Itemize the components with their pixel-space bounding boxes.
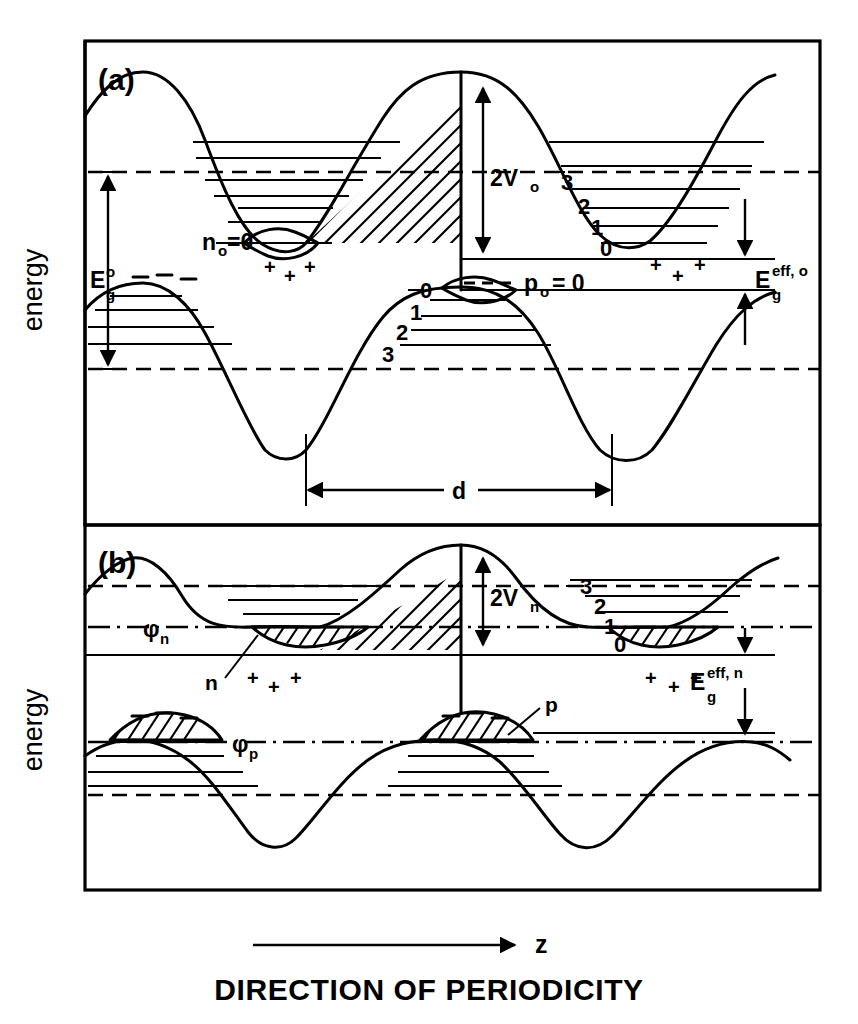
panel-a-charges-left: + + + bbox=[264, 256, 316, 287]
panel-a-hole-ground-base: p bbox=[524, 270, 538, 296]
panel-b-phi-n-sub: n bbox=[160, 630, 169, 647]
panel-b-charges-left: + + + bbox=[247, 667, 302, 698]
panel-b-level-0: 0 bbox=[614, 632, 626, 657]
panel-a-minus-symbols bbox=[133, 275, 196, 279]
panel-a-period-label: d bbox=[452, 478, 466, 504]
panel-b-phi-p-sub: p bbox=[249, 745, 258, 762]
svg-text:+: + bbox=[304, 256, 316, 278]
panel-b-effective-gap-sub: g bbox=[707, 688, 716, 705]
panel-a-gap-label-sup: o bbox=[106, 263, 115, 280]
panel-a-label: (a) bbox=[98, 63, 135, 96]
panel-b-barrier-label-sub: n bbox=[530, 598, 539, 615]
panel-a-electron-ground-eq: =0 bbox=[227, 229, 253, 255]
panel-a-effective-gap-base: E bbox=[755, 267, 770, 293]
panel-a-level-3: 3 bbox=[561, 170, 573, 195]
panel-a-y-axis-label: energy bbox=[18, 248, 48, 331]
panel-a-valence-levels-right bbox=[400, 300, 551, 345]
panel-b-phi-p-base: φ bbox=[232, 731, 248, 757]
panel-a-hole-ground-sub: o bbox=[540, 283, 549, 300]
panel-b-hole-accumulation-right bbox=[420, 712, 533, 740]
panel-a-valence-level-3: 3 bbox=[382, 342, 394, 367]
panel-a-level-2: 2 bbox=[578, 194, 590, 219]
svg-text:+: + bbox=[247, 667, 259, 689]
panel-a-valence-level-2: 2 bbox=[396, 320, 408, 345]
panel-b-effective-gap-sup: eff, n bbox=[707, 664, 743, 681]
panel-b-effective-gap-base: E bbox=[690, 669, 705, 695]
svg-text:+: + bbox=[645, 667, 657, 689]
panel-a-valence-level-1: 1 bbox=[410, 300, 422, 325]
svg-text:+: + bbox=[264, 256, 276, 278]
svg-text:+: + bbox=[268, 676, 280, 698]
panel-a-conduction-band-curve bbox=[85, 72, 775, 252]
panel-b-hole-label: p bbox=[545, 693, 558, 716]
z-axis-label: z bbox=[535, 930, 548, 958]
x-axis-caption: DIRECTION OF PERIODICITY bbox=[214, 973, 643, 1006]
svg-text:+: + bbox=[284, 265, 296, 287]
panel-a-conduction-levels-left bbox=[193, 142, 400, 222]
panel-a-conduction-levels-right bbox=[549, 142, 764, 243]
panel-a-gap-label-sub: g bbox=[106, 286, 115, 303]
panel-a-level-0: 0 bbox=[600, 236, 612, 261]
figure-root: 2V o E g o E g eff, o n o =0 p o = 0 3 bbox=[0, 0, 858, 1024]
svg-text:+: + bbox=[650, 254, 662, 276]
panel-a-hole-ground-eq: = 0 bbox=[552, 270, 585, 296]
panel-a-valence-levels-left bbox=[88, 296, 232, 344]
panel-b-phi-n-base: φ bbox=[143, 616, 159, 642]
panel-b-hole-accumulation-left bbox=[110, 713, 222, 740]
panel-a-barrier-label-sub: o bbox=[530, 178, 539, 195]
panel-a-effective-gap-sub: g bbox=[772, 286, 781, 303]
panel-b-label: (b) bbox=[98, 546, 136, 579]
svg-text:+: + bbox=[668, 676, 680, 698]
panel-b-y-axis-label: energy bbox=[18, 688, 48, 771]
panel-b-valence-levels-right bbox=[388, 742, 562, 786]
panel-a-electron-ground-sub: o bbox=[218, 242, 227, 259]
panel-a-barrier-label-base: 2V bbox=[490, 165, 519, 191]
panel-a-electron-ground-base: n bbox=[202, 229, 216, 255]
svg-text:+: + bbox=[694, 254, 706, 276]
panel-b-barrier-label-base: 2V bbox=[490, 585, 519, 611]
svg-text:+: + bbox=[290, 667, 302, 689]
panel-a-gap-label-base: E bbox=[90, 267, 105, 293]
panel-b-electron-label: n bbox=[205, 671, 218, 694]
band-diagram-svg: 2V o E g o E g eff, o n o =0 p o = 0 3 bbox=[0, 0, 858, 1024]
svg-text:+: + bbox=[672, 265, 684, 287]
panel-a-effective-gap-sup: eff, o bbox=[772, 262, 808, 279]
